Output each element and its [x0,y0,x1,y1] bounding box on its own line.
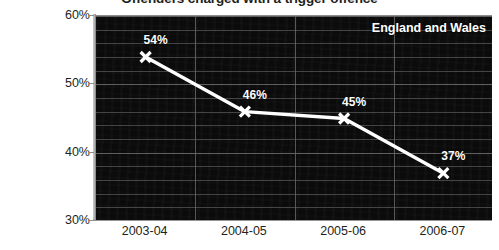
x-tick-label: 2003-04 [122,224,168,238]
y-tick-label: 50% [2,76,90,90]
x-tick-label: 2004-05 [221,224,267,238]
y-tick-mark [89,152,94,153]
data-point-label: 46% [243,88,267,102]
data-point-label: 37% [441,149,465,163]
chart-figure: Offenders charged with a trigger offence… [0,0,499,250]
y-axis-ticks: 60%50%40%30% [0,0,90,250]
data-point-label: 54% [144,33,168,47]
x-tick-label: 2005-06 [320,224,366,238]
x-axis-ticks: 2003-042004-052005-062006-07 [95,224,492,248]
y-tick-label: 40% [2,145,90,159]
x-tick-label: 2006-07 [419,224,465,238]
data-point-label: 45% [342,95,366,109]
y-tick-mark [89,83,94,84]
y-tick-label: 60% [2,8,90,22]
y-tick-mark [89,15,94,16]
y-tick-mark [89,220,94,221]
plot-area: England and Wales 54%46%45%37% [95,15,492,220]
y-tick-label: 30% [2,213,90,227]
